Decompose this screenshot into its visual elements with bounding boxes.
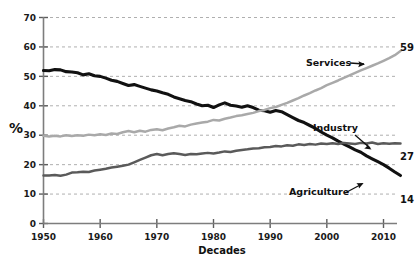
industry-end-value: 27 — [400, 151, 414, 162]
y-tick-label-20: 20 — [23, 160, 36, 170]
chart-page: 010203040506070 195019601970198019902000… — [0, 0, 416, 260]
y-tick-label-40: 40 — [23, 101, 36, 111]
y-tick-label-50: 50 — [23, 72, 36, 82]
services-end-value: 59 — [400, 42, 414, 53]
series-paths-group — [44, 51, 401, 176]
end-value-labels-group: 59 27 14 — [400, 42, 414, 205]
services-annotation-label: Services — [306, 57, 351, 68]
agriculture-annotation-label: Agriculture — [289, 186, 349, 197]
x-tick-label-2000: 2000 — [314, 232, 339, 242]
annotations-group: Services Industry Agriculture — [289, 57, 372, 197]
agriculture-end-value: 14 — [400, 194, 414, 205]
y-tick-label-70: 70 — [23, 13, 36, 23]
x-tick-label-1970: 1970 — [144, 232, 169, 242]
x-axis-tick-labels: 1950196019701980199020002010 — [31, 232, 396, 242]
industry-annotation-label: Industry — [313, 122, 359, 133]
x-tick-label-2010: 2010 — [371, 232, 396, 242]
x-tick-label-1950: 1950 — [31, 232, 56, 242]
series-line-industry — [44, 143, 401, 176]
y-axis-tick-labels: 010203040506070 — [23, 13, 36, 229]
x-tick-label-1960: 1960 — [88, 232, 113, 242]
y-axis-title: % — [9, 120, 23, 136]
y-tick-label-60: 60 — [23, 42, 36, 52]
x-tick-label-1990: 1990 — [258, 232, 283, 242]
x-axis-title: Decades — [198, 245, 246, 256]
x-tick-label-1980: 1980 — [201, 232, 226, 242]
y-tick-label-0: 0 — [30, 219, 36, 229]
y-tick-label-10: 10 — [23, 189, 36, 199]
employment-share-line-chart: 010203040506070 195019601970198019902000… — [0, 0, 416, 260]
y-tick-label-30: 30 — [23, 130, 36, 140]
